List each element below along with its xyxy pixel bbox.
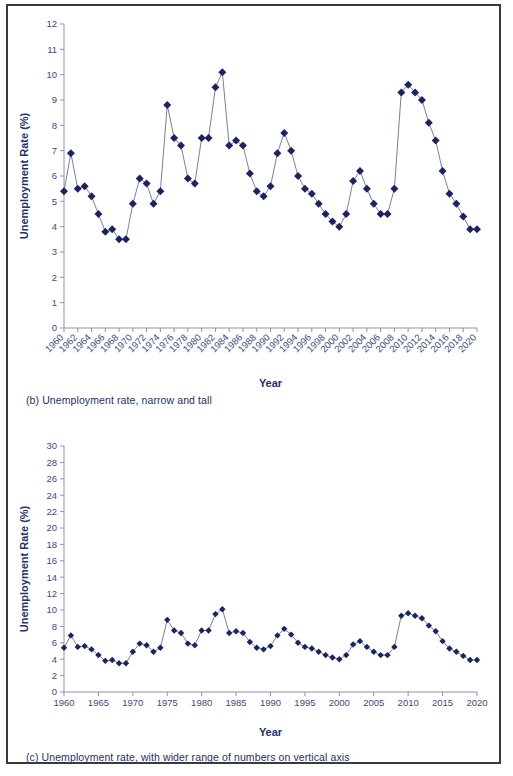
y-tick-label: 2 — [52, 272, 57, 283]
data-point-marker — [315, 649, 321, 655]
data-point-marker — [94, 210, 102, 218]
data-point-marker — [377, 210, 385, 218]
data-point-marker — [226, 630, 232, 636]
data-point-marker — [171, 627, 177, 633]
caption-panel-b: (b) Unemployment rate, narrow and tall — [26, 394, 212, 406]
data-point-marker — [473, 225, 481, 233]
data-point-marker — [336, 656, 342, 662]
data-point-marker — [205, 134, 213, 142]
data-point-marker — [192, 642, 198, 648]
data-point-marker — [211, 83, 219, 91]
data-point-marker — [280, 129, 288, 137]
x-tick-label: 1975 — [157, 697, 178, 708]
x-tick-label: 1995 — [294, 697, 315, 708]
x-tick-label: 2005 — [363, 697, 384, 708]
data-point-marker — [412, 613, 418, 619]
data-point-marker — [356, 167, 364, 175]
y-tick-label: 10 — [46, 69, 57, 80]
y-tick-label: 8 — [52, 120, 57, 131]
data-point-marker — [191, 180, 199, 188]
data-point-marker — [88, 192, 96, 200]
x-tick-label: 2000 — [329, 697, 350, 708]
data-point-marker — [342, 210, 350, 218]
data-point-marker — [453, 649, 459, 655]
y-tick-label: 28 — [46, 457, 57, 468]
data-point-marker — [108, 225, 116, 233]
y-tick-label: 3 — [52, 246, 57, 257]
y-tick-label: 9 — [52, 94, 57, 105]
data-point-marker — [398, 613, 404, 619]
data-point-marker — [460, 653, 466, 659]
data-point-marker — [233, 628, 239, 634]
data-point-marker — [246, 169, 254, 177]
data-point-marker — [149, 200, 157, 208]
data-point-marker — [445, 190, 453, 198]
chart-panel-c: 0246810121416182022242628301960196519701… — [8, 424, 499, 764]
data-point-marker — [363, 185, 371, 193]
data-point-marker — [432, 137, 440, 145]
data-point-marker — [273, 149, 281, 157]
data-point-marker — [459, 213, 467, 221]
data-point-marker — [301, 185, 309, 193]
x-tick-label: 1985 — [226, 697, 247, 708]
data-point-marker — [294, 172, 302, 180]
data-point-marker — [439, 167, 447, 175]
data-point-marker — [232, 137, 240, 145]
y-tick-label: 4 — [52, 654, 57, 665]
y-tick-label: 24 — [46, 490, 57, 501]
data-point-marker — [143, 180, 151, 188]
data-point-marker — [253, 187, 261, 195]
data-point-marker — [219, 606, 225, 612]
x-axis-title: Year — [259, 726, 283, 738]
data-point-marker — [377, 652, 383, 658]
data-point-marker — [322, 652, 328, 658]
data-point-marker — [384, 210, 392, 218]
data-point-marker — [343, 652, 349, 658]
y-tick-label: 10 — [46, 604, 57, 615]
y-tick-label: 20 — [46, 522, 57, 533]
unemployment-chart-wide-range: 0246810121416182022242628301960196519701… — [8, 424, 499, 746]
data-point-marker — [101, 228, 109, 236]
data-point-marker — [81, 643, 87, 649]
data-point-marker — [287, 147, 295, 155]
y-tick-label: 0 — [52, 686, 57, 697]
y-tick-label: 30 — [46, 440, 57, 451]
data-point-marker — [109, 657, 115, 663]
y-tick-label: 26 — [46, 473, 57, 484]
data-point-marker — [309, 645, 315, 651]
y-axis-title: Unemployment Rate (%) — [18, 112, 30, 239]
x-tick-label: 2010 — [398, 697, 419, 708]
data-point-marker — [205, 627, 211, 633]
data-point-marker — [163, 101, 171, 109]
data-point-marker — [302, 644, 308, 650]
data-point-marker — [335, 223, 343, 231]
y-tick-label: 1 — [52, 297, 57, 308]
data-point-marker — [122, 235, 130, 243]
data-point-marker — [218, 68, 226, 76]
data-point-marker — [466, 225, 474, 233]
series-line — [64, 72, 477, 239]
y-tick-label: 14 — [46, 572, 57, 583]
data-point-marker — [67, 149, 75, 157]
x-tick-label: 1990 — [260, 697, 281, 708]
data-point-marker — [267, 643, 273, 649]
data-point-marker — [370, 200, 378, 208]
data-point-marker — [136, 175, 144, 183]
data-point-marker — [329, 654, 335, 660]
data-point-marker — [390, 185, 398, 193]
data-point-marker — [198, 627, 204, 633]
data-point-marker — [371, 649, 377, 655]
x-tick-label: 1970 — [122, 697, 143, 708]
y-tick-label: 16 — [46, 555, 57, 566]
x-tick-label: 1965 — [88, 697, 109, 708]
y-tick-label: 8 — [52, 621, 57, 632]
y-tick-label: 5 — [52, 196, 57, 207]
y-tick-label: 2 — [52, 670, 57, 681]
data-point-marker — [157, 645, 163, 651]
data-point-marker — [156, 187, 164, 195]
caption-panel-c: (c) Unemployment rate, with wider range … — [26, 751, 350, 763]
data-point-marker — [129, 200, 137, 208]
data-point-marker — [225, 142, 233, 150]
x-tick-label: 1960 — [53, 697, 74, 708]
data-point-marker — [212, 611, 218, 617]
